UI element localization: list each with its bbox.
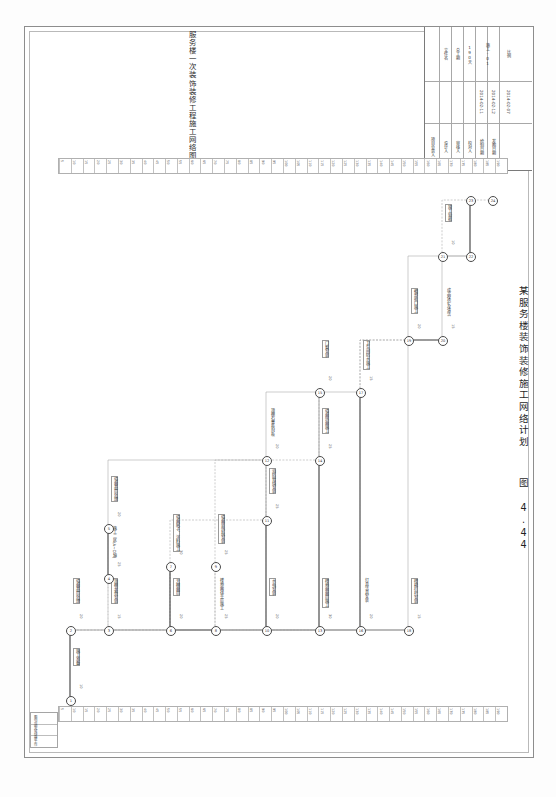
activity-label: 楼梯栏杆安装	[411, 578, 418, 604]
activity-label: 墙面基层处理	[111, 476, 118, 502]
activity-duration: 25	[117, 562, 121, 566]
network-node[interactable]: 15	[315, 388, 325, 398]
activity-duration: 10	[451, 240, 455, 244]
title-block-label-scale: 比例	[506, 50, 510, 58]
activity-duration: 15	[117, 614, 121, 618]
activity-duration: 15	[369, 376, 373, 380]
activity-label: 墙面饰面施工	[322, 408, 329, 434]
activity-label: 成品保护及清洁	[445, 288, 450, 316]
network-node[interactable]: 16	[356, 626, 366, 636]
network-node[interactable]: 3	[104, 626, 114, 636]
network-node[interactable]: 5	[104, 524, 114, 534]
activity-duration: 15	[417, 614, 421, 618]
activity-duration: 25	[275, 504, 279, 508]
network-edge	[70, 630, 408, 700]
title-block-label-project-lead: 项目负责人	[430, 137, 434, 157]
title-block-value-issue-date: 2014-02-12	[491, 90, 495, 114]
activity-duration: 30	[179, 550, 183, 554]
title-block-label-drawing-no: 施工-01	[485, 43, 489, 66]
activity-label: 墙面腻子、涂料施工	[173, 514, 180, 552]
network-node[interactable]: 10	[262, 626, 272, 636]
title-block-value-draw-date: 2014-02-11	[479, 90, 483, 114]
activity-label: 消防管线安装	[269, 468, 276, 494]
network-graph	[30, 160, 508, 720]
activity-duration: 25	[328, 444, 332, 448]
network-node[interactable]: 17	[356, 388, 366, 398]
activity-duration: 30	[328, 614, 332, 618]
network-edge	[360, 340, 442, 630]
drawing-page: 服务楼一次装饰装修工程施工网络图 项目负责人 设计人 审核人 校对人 绘制日期 …	[0, 0, 556, 797]
network-node[interactable]: 2	[66, 626, 76, 636]
activity-duration: 20	[179, 614, 183, 618]
network-node[interactable]: 6	[166, 626, 176, 636]
network-node[interactable]: 14	[315, 456, 325, 466]
activity-duration: 20	[275, 614, 279, 618]
network-node[interactable]: 12	[262, 456, 272, 466]
activity-label: 卫生间防水施工	[363, 340, 370, 370]
network-node[interactable]: 11	[262, 516, 272, 526]
title-block-label-checker: 校对人	[467, 141, 471, 153]
activity-label: 水电安装	[269, 578, 276, 596]
activity-label: 天棚面层	[173, 578, 180, 596]
activity-label: 墙面基层处理	[73, 578, 80, 604]
activity-duration: 20	[275, 444, 279, 448]
title-block-label-issue-date: 发图日期	[491, 139, 495, 155]
activity-duration: 20	[417, 324, 421, 328]
title-block-value-total-duration: 190天	[467, 45, 471, 64]
activity-label: 顶棚石膏板封板	[269, 408, 274, 436]
sheet-title: 服务楼一次装饰装修工程施工网络图	[186, 30, 197, 160]
network-node[interactable]: 21	[438, 252, 448, 262]
title-block-label-total-duration: 总工期	[455, 48, 459, 60]
activity-label: 细部收口施工	[411, 288, 418, 314]
activity-duration: 15	[451, 324, 455, 328]
activity-label: 竣工验收	[445, 204, 452, 222]
activity-label: 墙面装饰板安装	[218, 514, 225, 544]
activity-label: 楼地面面层施工	[322, 578, 329, 608]
activity-duration: 20	[369, 614, 373, 618]
activity-label: 灯具洁具安装	[363, 578, 368, 602]
network-edge	[215, 460, 319, 566]
activity-label: 楼地面找平层施工	[218, 578, 223, 610]
activity-duration: 25	[224, 550, 228, 554]
activity-duration: 20	[79, 614, 83, 618]
network-diagram-canvas: 5101520253035404550556065707580859095100…	[30, 160, 508, 720]
network-node[interactable]: 4	[104, 574, 114, 584]
network-edge	[108, 460, 266, 528]
figure-caption: 某服务楼装饰装修施工网络计划	[516, 286, 530, 448]
activity-duration: 20	[117, 512, 121, 516]
network-node[interactable]: 23	[466, 196, 476, 206]
activity-duration: 25	[224, 614, 228, 618]
title-block-label-reviewer: 审核人	[455, 141, 459, 153]
network-node[interactable]: 24	[488, 196, 498, 206]
network-node[interactable]: 19	[404, 336, 414, 346]
network-node[interactable]: 13	[315, 626, 325, 636]
network-node[interactable]: 22	[466, 252, 476, 262]
legend-dummy-activity: 虚工作	[33, 737, 38, 746]
network-node[interactable]: 8	[211, 626, 221, 636]
network-node[interactable]: 9	[211, 562, 221, 572]
title-block-date-note: 2014-02-07	[506, 90, 510, 114]
critical-path-edge	[170, 566, 215, 630]
title-block-label-designer: 设计人	[443, 141, 447, 153]
title-block: 项目负责人 设计人 审核人 校对人 绘制日期 发图日期 2014-02-11 2…	[424, 27, 532, 171]
title-block-label-filename: 文件名	[443, 48, 447, 60]
network-node[interactable]: 18	[404, 626, 414, 636]
network-node[interactable]: 7	[166, 562, 176, 572]
legend-box: 图例说明 关键线路 虚工作	[30, 712, 58, 748]
activity-duration: 20	[328, 376, 332, 380]
title-block-label-draw-date: 绘制日期	[479, 139, 483, 155]
activity-duration: 10	[79, 684, 83, 688]
network-node[interactable]: 20	[438, 336, 448, 346]
activity-label: 门窗安装	[322, 340, 329, 358]
figure-number: 图 4.44	[516, 478, 530, 551]
network-node[interactable]: 1	[66, 696, 76, 706]
activity-label: 施工准备	[73, 648, 80, 666]
